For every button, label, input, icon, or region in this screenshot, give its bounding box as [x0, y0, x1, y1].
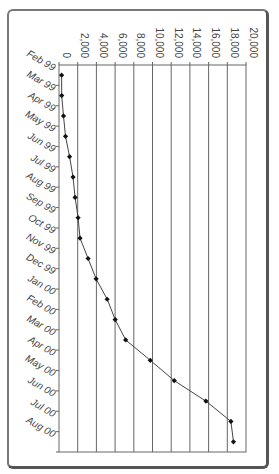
category-label: Dec 99: [25, 251, 58, 277]
value-tick-label: 2,000: [79, 33, 90, 58]
category-label: Mar 99: [25, 68, 58, 93]
data-point-marker: [63, 134, 68, 139]
data-point-marker: [59, 93, 64, 98]
data-point-marker: [94, 276, 99, 281]
value-tick-label: 0: [61, 52, 72, 58]
category-label: Jun 00: [25, 374, 58, 399]
data-point-marker: [70, 174, 75, 179]
value-tick-label: 20,000: [248, 27, 259, 58]
value-tick-label: 6,000: [117, 33, 128, 58]
value-tick-label: 10,000: [154, 27, 165, 58]
data-point-marker: [231, 439, 236, 444]
value-tick-label: 4,000: [98, 33, 109, 58]
data-point-marker: [85, 256, 90, 261]
data-point-marker: [113, 317, 118, 322]
value-tick-label: 18,000: [229, 27, 240, 58]
data-point-marker: [77, 236, 82, 241]
value-tick-label: 14,000: [191, 27, 202, 58]
data-point-marker: [105, 297, 110, 302]
value-tick-label: 16,000: [210, 27, 221, 58]
data-point-marker: [67, 154, 72, 159]
data-point-marker: [61, 113, 66, 118]
data-point-marker: [75, 215, 80, 220]
category-label: Jun 99: [25, 129, 58, 154]
category-label: Mar 00: [25, 313, 58, 338]
data-point-marker: [72, 195, 77, 200]
line-chart: 02,0004,0006,0008,00010,00012,00014,0001…: [0, 0, 279, 474]
data-point-marker: [59, 73, 64, 78]
value-tick-label: 8,000: [135, 33, 146, 58]
category-label: Sep 99: [25, 190, 58, 216]
value-tick-label: 12,000: [173, 27, 184, 58]
